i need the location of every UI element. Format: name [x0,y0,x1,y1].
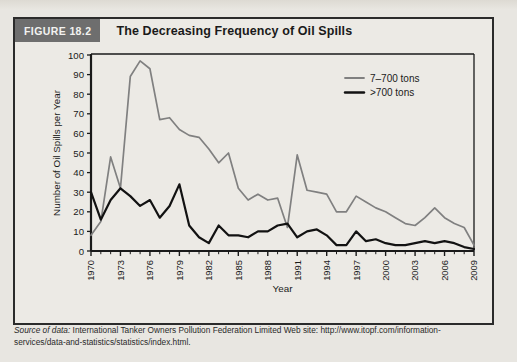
x-tick-label: 1997 [351,260,362,281]
y-tick-label: 60 [73,128,84,139]
x-tick-label: 1988 [262,260,273,281]
series-line-small [91,61,474,245]
y-tick-label: 30 [73,187,84,198]
y-tick-label: 100 [68,50,84,61]
source-label: Source of data: [14,325,70,335]
figure-header: FIGURE 18.2 The Decreasing Frequency of … [15,19,492,42]
x-tick-label: 1982 [203,260,214,281]
y-tick-label: 10 [73,226,84,237]
x-tick-label: 1979 [174,260,185,281]
x-tick-label: 1976 [144,260,155,281]
y-axis-title: Number of Oil Spills per Year [51,89,62,216]
y-tick-label: 80 [73,89,84,100]
source-note: Source of data: International Tanker Own… [14,325,484,348]
y-tick-label: 50 [73,148,84,159]
x-axis-title: Year [273,283,294,294]
source-text: International Tanker Owners Pollution Fe… [14,325,441,347]
y-tick-label: 90 [73,69,84,80]
y-tick-label: 70 [73,108,84,119]
oil-spills-line-chart: 0102030405060708090100197019731976197919… [15,42,492,294]
figure-number-badge: FIGURE 18.2 [15,19,100,42]
x-tick-label: 2000 [380,260,391,281]
chart-plot-area: 0102030405060708090100197019731976197919… [15,42,492,294]
legend-label-0: 7–700 tons [370,73,420,84]
x-tick-label: 1973 [115,260,126,281]
x-tick-label: 2003 [409,260,420,281]
y-tick-label: 0 [79,246,84,257]
x-tick-label: 1994 [321,260,332,281]
x-tick-label: 1970 [85,260,96,281]
figure-title: The Decreasing Frequency of Oil Spills [100,19,352,42]
y-tick-label: 20 [73,206,84,217]
series-line-large [91,184,474,249]
x-tick-label: 2006 [439,260,450,281]
x-tick-label: 1985 [233,260,244,281]
page-top-edge [0,0,517,10]
figure-card: FIGURE 18.2 The Decreasing Frequency of … [13,17,494,325]
x-tick-label: 2009 [468,260,479,281]
y-tick-label: 40 [73,167,84,178]
x-tick-label: 1991 [292,260,303,281]
legend-label-1: >700 tons [370,87,414,98]
